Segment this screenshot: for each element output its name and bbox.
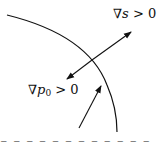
grad-s-arrow [92,32,131,60]
pointer-arrow [79,86,101,128]
grad-p0-arrow [67,60,92,79]
grad-p0-label: ∇p0 > 0 [28,83,79,98]
var-s: s [122,6,129,21]
relation: > 0 [51,82,78,97]
diagram-canvas: ∇s > 0 ∇p0 > 0 ▪ ▪ ▪ ▪ ▪ ▪ ▪ ▪ ▪ ▪ ▪ ▪ ▪ [0,0,159,142]
diagram-graphics [0,0,159,142]
relation: > 0 [129,6,156,21]
truncated-caption: ▪ ▪ ▪ ▪ ▪ ▪ ▪ ▪ ▪ ▪ ▪ ▪ ▪ [0,136,159,142]
curved-surface [7,15,117,132]
nabla-symbol: ∇ [113,6,122,21]
grad-s-label: ∇s > 0 [113,7,156,20]
nabla-symbol: ∇ [28,82,37,97]
